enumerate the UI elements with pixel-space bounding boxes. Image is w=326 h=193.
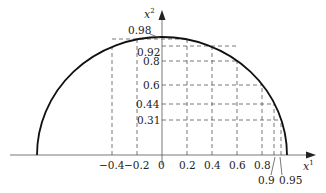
x-axis-arrow-icon [306, 152, 316, 159]
y-tick-0.98: 0.98 [128, 24, 151, 36]
y-tick-0.8: 0.8 [143, 55, 160, 67]
leader-line-0.95 [280, 157, 282, 175]
x-tick-0.9: 0.9 [258, 174, 275, 186]
x-tick-neg0.4: −0.4 [99, 159, 125, 171]
x-tick-0.6: 0.6 [229, 159, 246, 171]
x-tick-0.8: 0.8 [254, 159, 271, 171]
x-tick-0.4: 0.4 [204, 159, 221, 171]
semi-ellipse-diagram: 0.98 0.92 0.8 0.6 0.44 0.31 −0.4 −0.2 0 … [0, 0, 326, 193]
y-tick-0.44: 0.44 [136, 98, 160, 110]
y-axis-label: x2 [144, 7, 155, 21]
x-tick-0: 0 [158, 159, 165, 171]
y-axis-arrow-icon [159, 10, 166, 20]
y-tick-0.31: 0.31 [137, 114, 160, 126]
x-tick-0.95: 0.95 [279, 174, 302, 186]
leader-line-0.9 [271, 157, 275, 175]
x-tick-neg0.2: −0.2 [124, 159, 150, 171]
y-tick-0.6: 0.6 [143, 79, 160, 91]
x-tick-0.2: 0.2 [179, 159, 196, 171]
x-axis-label: x1 [303, 159, 314, 173]
